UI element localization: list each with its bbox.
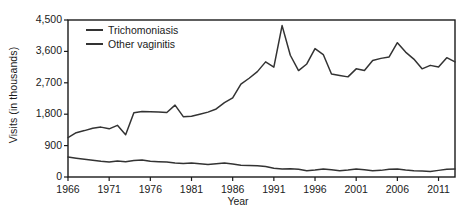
y-tick-label: 1,800 <box>22 107 62 119</box>
legend-swatch-icon <box>86 29 103 31</box>
x-tick-label: 2006 <box>375 183 419 195</box>
y-tick-label: 4,500 <box>22 13 62 25</box>
line-chart-canvas <box>0 0 476 214</box>
legend-label: Trichomoniasis <box>108 24 178 36</box>
x-tick-label: 1991 <box>252 183 296 195</box>
y-tick-label: 3,600 <box>22 44 62 56</box>
x-tick-label: 1971 <box>87 183 131 195</box>
y-tick-label: 0 <box>22 170 62 182</box>
y-axis-title-text: Visits (in thousands) <box>7 47 19 143</box>
x-tick-label: 1966 <box>46 183 90 195</box>
x-tick-label: 1981 <box>170 183 214 195</box>
x-tick-label: 1976 <box>128 183 172 195</box>
x-tick-label: 1986 <box>211 183 255 195</box>
x-tick-label: 1996 <box>293 183 337 195</box>
y-tick-label: 900 <box>22 139 62 151</box>
y-axis-title: Visits (in thousands) <box>2 0 24 190</box>
legend-item-other-vaginitis: Other vaginitis <box>86 38 175 50</box>
x-tick-label: 2011 <box>417 183 461 195</box>
legend-label: Other vaginitis <box>108 38 175 50</box>
legend-item-trichomoniasis: Trichomoniasis <box>86 24 178 36</box>
chart-figure: Visits (in thousands) Year 09001,8002,70… <box>0 0 476 214</box>
series-line-trichomoniasis <box>68 157 455 171</box>
x-tick-label: 2001 <box>334 183 378 195</box>
x-axis-title: Year <box>0 195 476 207</box>
y-tick-label: 2,700 <box>22 76 62 88</box>
legend-swatch-icon <box>86 43 103 45</box>
